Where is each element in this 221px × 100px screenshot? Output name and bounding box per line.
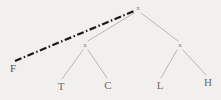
tree-node-c: C [104,80,111,91]
tree-edge-left-c [88,50,107,78]
tree-edge-right-h [183,50,206,75]
tree-node-l: L [157,80,164,91]
tree-node-left: x [83,42,87,49]
tree-node-h: H [204,77,212,88]
tree-diagram-figure: xxxTCLHF [0,0,221,100]
tree-node-f: F [10,63,16,74]
tree-node-right: x [178,42,182,49]
highlight-edge-f-root [15,11,134,61]
tree-edge-left-t [62,50,83,79]
tree-node-root: x [136,5,140,12]
tree-edge-root-right [141,13,178,41]
tree-edge-right-l [161,50,177,78]
tree-node-t: T [58,81,65,92]
